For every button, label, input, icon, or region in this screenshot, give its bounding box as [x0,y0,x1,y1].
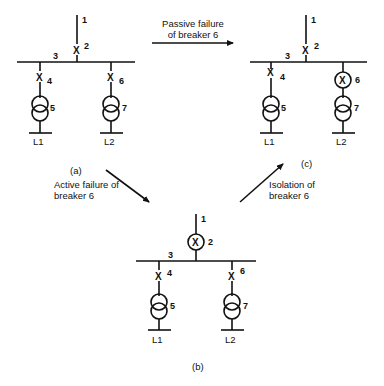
isolation-line1: Isolation of [269,179,315,190]
label-load-L2: L2 [225,334,236,345]
transformer-5-winding [263,105,279,121]
transformer-5-icon [263,96,279,112]
label-breaker-6: 6 [119,76,124,86]
transformer-5-winding [32,105,48,121]
switching-diagram: 1 X 2 3 X 4 5 L1 X 6 7 L2 (a) Passive fa… [0,0,384,386]
label-transformer-7: 7 [354,103,359,113]
label-load-L1: L1 [264,136,275,147]
diagram-a: 1 X 2 3 X 4 5 L1 X 6 7 L2 (a) [17,15,135,176]
transformer-5-icon [32,96,48,112]
label-feeder: 1 [82,15,87,25]
transition-passive-failure: Passive failure of breaker 6 [152,18,233,43]
breaker-4-icon: X [267,67,274,78]
breaker-2-icon: X [73,45,80,56]
label-load-L1: L1 [33,136,44,147]
label-transformer-7: 7 [243,301,248,311]
label-breaker-6: 6 [240,266,245,276]
breaker-2-icon: X [192,237,199,248]
transformer-7-winding [335,105,351,121]
label-load-L2: L2 [336,136,347,147]
transformer-7-winding [103,105,119,121]
breaker-4-icon: X [36,72,43,83]
label-load-L1: L1 [152,334,163,345]
breaker-6-icon: X [107,72,114,83]
active-failure-line1: Active failure of [54,179,119,190]
transition-active-failure: Active failure of breaker 6 [54,170,149,202]
passive-failure-line2: of breaker 6 [168,29,219,40]
active-failure-line2: breaker 6 [54,190,94,201]
caption-b: (b) [192,361,204,372]
label-busbar: 3 [285,51,290,61]
label-transformer-5: 5 [170,301,175,311]
label-breaker-2: 2 [314,41,319,51]
label-breaker-4: 4 [47,76,52,86]
label-busbar: 3 [168,250,173,260]
label-feeder: 1 [311,15,316,25]
breaker-2-icon: X [302,45,309,56]
transformer-7-winding [224,303,240,319]
transformer-5-icon [151,294,167,310]
label-breaker-4: 4 [280,72,285,82]
caption-a: (a) [70,165,82,176]
caption-c: (c) [301,158,312,169]
transformer-5-winding [151,303,167,319]
breaker-6-icon: X [228,271,235,282]
transition-isolation: Isolation of breaker 6 [240,164,315,202]
label-transformer-5: 5 [281,103,286,113]
transformer-7-icon [224,294,240,310]
diagram-c: 1 X 2 3 X 4 5 L1 X 6 7 L2 (c) [250,15,367,169]
label-breaker-4: 4 [167,268,172,278]
label-load-L2: L2 [104,136,115,147]
passive-failure-line1: Passive failure [162,18,224,29]
label-busbar: 3 [53,51,58,61]
breaker-6-icon: X [339,75,346,86]
diagram-b: 1 X 2 3 X 4 5 L1 X 6 7 L2 (b) [136,214,256,372]
label-feeder: 1 [201,214,206,224]
label-transformer-5: 5 [50,103,55,113]
label-breaker-2: 2 [208,237,213,247]
label-breaker-2: 2 [84,41,89,51]
isolation-line2: breaker 6 [269,190,309,201]
label-transformer-7: 7 [122,103,127,113]
breaker-4-icon: X [155,271,162,282]
transformer-7-icon [335,96,351,112]
label-breaker-6: 6 [355,75,360,85]
transformer-7-icon [103,96,119,112]
